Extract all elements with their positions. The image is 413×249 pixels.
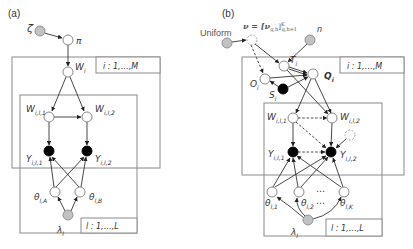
label-y-il2: Yi,l,2 [340,150,357,162]
node-theta-l2 [294,187,304,197]
ellipsis-top: ⋯ [316,186,325,196]
panel-a: (a) i : 1,…,M l : 1,…,L ζ π Wi Wi,l,1 W [8,8,160,237]
node-w-il2 [327,113,337,123]
graphical-model-figure: (a) i : 1,…,M l : 1,…,L ζ π Wi Wi,l,1 W [0,0,413,249]
label-y-il1: Yi,l,1 [26,154,42,166]
plate-i-label: i : 1,…,M [347,62,382,71]
node-theta-lb [75,187,85,197]
panel-b-label: (b) [222,8,234,19]
label-theta-la: θl,A [34,192,47,204]
node-lambda-l [63,210,73,220]
label-n: n [317,25,322,34]
label-w-i: Wi [75,62,86,74]
ellipsis-bottom: ⋯ [316,198,325,208]
node-extra-dashed [345,130,355,140]
label-theta-l1: θl,1 [265,198,278,210]
label-lambda-l: λl [56,225,64,237]
label-y-il2: Yi,l,2 [95,154,112,166]
label-theta-l2: θl,2 [301,198,314,210]
node-t-i [279,61,289,71]
label-zeta: ζ [26,22,34,35]
node-zeta [35,26,45,36]
plate-i-label: i : 1,…,M [103,62,138,71]
label-y-il1: Yi,l,1 [268,149,284,161]
label-w-il1: Wi,l,1 [267,112,287,124]
node-y-il1 [288,147,298,157]
label-w-il1: Wi,l,1 [26,104,46,116]
label-w-il2: Wi,l,2 [340,112,360,124]
node-o-i [260,74,270,84]
label-uniform: Uniform [200,28,232,38]
node-theta-la [50,187,60,197]
label-o-i: Oi [250,79,259,91]
plate-l-label: l : 1,…,L [86,222,119,231]
panel-b: (b) i : 1,…,M l : 1,…,L [200,8,404,239]
plate-l-label: l : 1,…,L [331,224,364,233]
node-uniform [222,38,232,48]
label-nu: ν = [νg,h]Kg,h=1 [243,21,297,33]
node-w-il2 [82,112,92,122]
label-theta-lk: θl,K [340,198,354,210]
node-lambda-l [303,215,313,225]
node-n [305,35,315,45]
node-q-i [308,69,318,79]
node-y-il2 [82,146,92,156]
node-pi [63,35,73,45]
label-s-i: Si [269,90,277,102]
node-s-i [278,84,288,94]
node-theta-lk [339,187,349,197]
node-y-il2 [326,147,336,157]
node-y-il1 [44,146,54,156]
label-theta-lb: θl,B [89,192,102,204]
node-w-i [63,67,73,77]
label-w-il2: Wi,l,2 [95,104,115,116]
node-theta-l1 [267,187,277,197]
panel-a-label: (a) [8,8,20,19]
label-q-i: Qi [324,71,335,83]
node-w-il1 [288,113,298,123]
label-pi: π [76,36,82,46]
node-nu [247,35,257,45]
label-lambda-l: λl [290,227,298,239]
